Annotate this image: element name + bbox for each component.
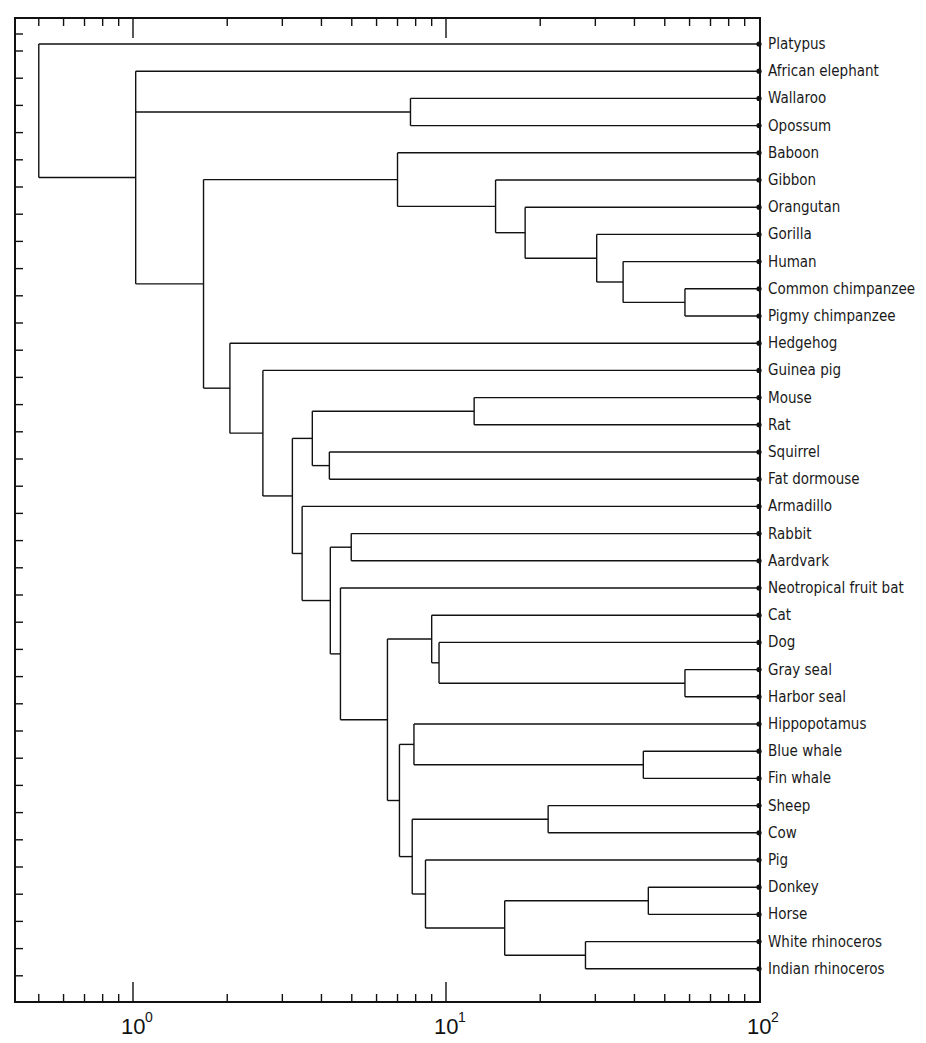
leaf-label: Harbor seal: [768, 688, 846, 706]
leaf-label: Armadillo: [768, 497, 832, 515]
leaf-label: Sheep: [768, 797, 810, 815]
leaf-label: Human: [768, 253, 817, 271]
leaf-node-dot: [756, 966, 761, 971]
x-tick-label-exponent: 2: [771, 1009, 779, 1025]
leaf-label: Squirrel: [768, 443, 820, 461]
leaf-node-dot: [756, 41, 761, 46]
x-tick-label-exponent: 0: [145, 1009, 153, 1025]
leaf-label: Fat dormouse: [768, 470, 860, 488]
leaf-label: Donkey: [768, 878, 819, 896]
leaf-node-dot: [756, 939, 761, 944]
x-tick-label: 101: [434, 1009, 466, 1039]
axis-ticks: [15, 18, 745, 1002]
leaf-node-dot: [756, 640, 761, 645]
leaf-node-dot: [756, 368, 761, 373]
leaf-label: Gorilla: [768, 225, 812, 243]
leaf-node-dot: [756, 422, 761, 427]
leaf-node-dot: [756, 776, 761, 781]
leaf-label: Hippopotamus: [768, 715, 866, 733]
leaf-node-dot: [756, 286, 761, 291]
leaf-node-dot: [756, 69, 761, 74]
leaf-node-dot: [756, 749, 761, 754]
x-tick-label-base: 10: [121, 1014, 145, 1039]
leaf-node-dot: [756, 885, 761, 890]
leaf-node-dot: [756, 395, 761, 400]
leaf-node-dot: [756, 232, 761, 237]
leaf-node-dot: [756, 830, 761, 835]
leaf-node-dot: [756, 857, 761, 862]
x-tick-label: 102: [747, 1009, 779, 1039]
leaf-label: Common chimpanzee: [768, 280, 915, 298]
leaf-node-dot: [756, 613, 761, 618]
leaf-label: Pigmy chimpanzee: [768, 307, 896, 325]
leaf-label: Horse: [768, 905, 807, 923]
leaf-node-dot: [756, 803, 761, 808]
leaf-node-dot: [756, 912, 761, 917]
leaf-node-dot: [756, 667, 761, 672]
leaf-label: Guinea pig: [768, 361, 841, 379]
leaf-node-dot: [756, 531, 761, 536]
leaf-label: Mouse: [768, 389, 812, 407]
leaf-node-dot: [756, 585, 761, 590]
plot-frame: [15, 18, 760, 1002]
plot-frame-rect: [15, 18, 760, 1002]
leaf-node-dot: [756, 694, 761, 699]
leaf-node-dot: [756, 96, 761, 101]
leaf-label: Opossum: [768, 117, 831, 135]
leaf-label: White rhinoceros: [768, 933, 882, 951]
leaf-label: Platypus: [768, 35, 826, 53]
leaf-label: Cat: [768, 606, 791, 624]
x-tick-label-exponent: 1: [458, 1009, 466, 1025]
leaf-label: Indian rhinoceros: [768, 960, 885, 978]
leaf-node-dot: [756, 341, 761, 346]
leaf-label: Blue whale: [768, 742, 842, 760]
leaf-node-dot: [756, 123, 761, 128]
leaf-label: Pig: [768, 851, 788, 869]
leaf-label: Neotropical fruit bat: [768, 579, 904, 597]
leaf-node-dot: [756, 721, 761, 726]
x-tick-label-base: 10: [434, 1014, 458, 1039]
leaf-node-dot: [756, 313, 761, 318]
leaf-label: Wallaroo: [768, 89, 826, 107]
leaf-node-dot: [756, 477, 761, 482]
leaf-label: Gibbon: [768, 171, 816, 189]
leaf-node-dot: [756, 259, 761, 264]
leaf-label: African elephant: [768, 62, 879, 80]
x-tick-label: 100: [121, 1009, 153, 1039]
leaf-node-dot: [756, 177, 761, 182]
leaf-label: Orangutan: [768, 198, 840, 216]
leaf-label: Rat: [768, 416, 791, 434]
leaf-node-dot: [756, 205, 761, 210]
dendrogram-branches: [39, 44, 759, 969]
leaf-label: Gray seal: [768, 661, 832, 679]
leaf-label: Hedgehog: [768, 334, 837, 352]
leaf-label: Fin whale: [768, 769, 831, 787]
leaf-node-dot: [756, 150, 761, 155]
leaf-label: Aardvark: [768, 552, 829, 570]
leaf-label: Cow: [768, 824, 797, 842]
x-axis-tick-labels: 100101102: [121, 1009, 779, 1039]
leaf-label: Baboon: [768, 144, 819, 162]
leaf-node-dot: [756, 558, 761, 563]
leaf-label: Dog: [768, 633, 795, 651]
dendrogram-chart: PlatypusAfrican elephantWallarooOpossumB…: [0, 0, 926, 1043]
leaf-node-dot: [756, 504, 761, 509]
leaf-node-dot: [756, 449, 761, 454]
x-tick-label-base: 10: [747, 1014, 771, 1039]
leaf-label: Rabbit: [768, 525, 812, 543]
leaf-labels: PlatypusAfrican elephantWallarooOpossumB…: [756, 35, 915, 978]
